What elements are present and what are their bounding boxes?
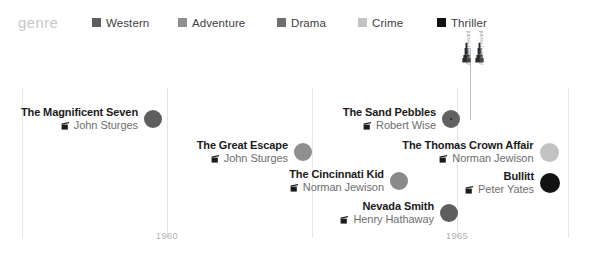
gridline — [568, 88, 569, 238]
film-genre-dot[interactable] — [440, 204, 458, 222]
legend-swatch-icon — [277, 18, 286, 27]
film-point-inner: BullittPeter Yates — [0, 170, 560, 196]
legend-item-western[interactable]: Western — [92, 16, 149, 29]
film-director-line: Peter Yates — [465, 183, 534, 196]
film-title: The Thomas Crown Affair — [402, 139, 533, 152]
film-point-inner: Nevada SmithHenry Hathaway — [0, 200, 458, 226]
film-label: The Thomas Crown AffairNorman Jewison — [402, 139, 539, 165]
film-director: Henry Hathaway — [353, 213, 434, 226]
legend-item-adventure[interactable]: Adventure — [178, 16, 245, 29]
clapperboard-icon — [465, 185, 474, 194]
legend-item-label: Drama — [291, 17, 326, 29]
film-label: BullittPeter Yates — [465, 170, 540, 196]
film-director: Peter Yates — [478, 183, 534, 196]
film-point-inner: The Sand PebblesRobert Wise — [0, 106, 460, 132]
legend-swatch-icon — [437, 18, 446, 27]
film-point-inner: The Thomas Crown AffairNorman Jewison — [0, 139, 559, 165]
legend-item-thriller[interactable]: Thriller — [437, 16, 487, 29]
axis-tick-label: 1960 — [156, 230, 178, 241]
film-label: Nevada SmithHenry Hathaway — [340, 200, 440, 226]
award-caption: Academy Award — [479, 31, 484, 65]
film-title: Bullitt — [504, 170, 534, 183]
legend-title: genre — [18, 14, 58, 31]
clapperboard-icon — [363, 121, 372, 130]
legend-item-label: Crime — [372, 17, 403, 29]
award-caption: Academy Award — [466, 31, 471, 65]
plot-area: 19601965 Academy AwardAcademy Award The … — [0, 40, 589, 261]
film-title: Nevada Smith — [362, 200, 434, 213]
clapperboard-icon — [340, 215, 349, 224]
film-director: Norman Jewison — [452, 152, 533, 165]
film-genre-dot[interactable] — [540, 173, 560, 193]
axis-tick-label: 1965 — [446, 230, 468, 241]
legend: genre WesternAdventureDramaCrimeThriller — [0, 0, 589, 40]
film-director-line: Robert Wise — [363, 119, 436, 132]
film-director-line: Henry Hathaway — [340, 213, 434, 226]
legend-swatch-icon — [358, 18, 367, 27]
chart-canvas: genre WesternAdventureDramaCrimeThriller… — [0, 0, 589, 261]
film-title: The Sand Pebbles — [343, 106, 436, 119]
clapperboard-icon — [439, 154, 448, 163]
legend-item-label: Thriller — [451, 17, 487, 29]
legend-item-label: Western — [106, 17, 149, 29]
award-badges: Academy AwardAcademy Award — [448, 43, 494, 89]
legend-item-label: Adventure — [192, 17, 245, 29]
film-genre-dot[interactable] — [442, 110, 460, 128]
film-director-line: Norman Jewison — [439, 152, 533, 165]
film-label: The Sand PebblesRobert Wise — [343, 106, 442, 132]
legend-swatch-icon — [178, 18, 187, 27]
film-director: Robert Wise — [376, 119, 436, 132]
legend-item-drama[interactable]: Drama — [277, 16, 326, 29]
legend-swatch-icon — [92, 18, 101, 27]
legend-item-crime[interactable]: Crime — [358, 16, 403, 29]
film-genre-dot[interactable] — [540, 143, 559, 162]
